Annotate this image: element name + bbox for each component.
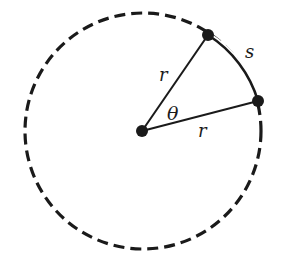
label-angle-theta: θ (167, 102, 179, 124)
label-radius-lower: r (198, 120, 208, 141)
label-arc-s: s (245, 41, 254, 62)
arc-length-diagram: r θ r s (0, 0, 282, 265)
center-point (136, 125, 148, 137)
label-radius-upper: r (159, 64, 169, 85)
point-a (202, 29, 214, 41)
point-b (252, 95, 264, 107)
